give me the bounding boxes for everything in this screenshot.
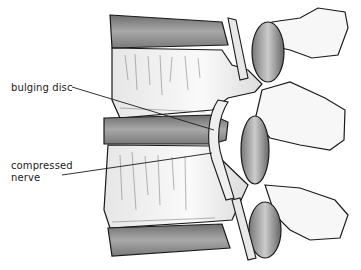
nerve-ganglion-upper (252, 22, 284, 82)
lower-disc (108, 224, 230, 256)
label-compressed-nerve-line2: nerve (11, 172, 73, 184)
upper-disc (110, 15, 228, 48)
label-compressed-nerve: compressed nerve (11, 160, 73, 184)
spine-illustration (0, 0, 361, 270)
nerve-ganglion-middle (241, 116, 269, 184)
label-compressed-nerve-line1: compressed (11, 160, 73, 172)
label-bulging-disc: bulging disc (11, 82, 73, 94)
